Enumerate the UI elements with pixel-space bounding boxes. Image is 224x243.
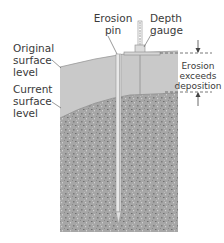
original-surface-label-line: level	[13, 66, 54, 78]
current-surface-label-line: surface	[13, 95, 52, 107]
depth-gauge-label: Depth gauge	[150, 12, 183, 36]
erosion-pin-label-line: Erosion	[88, 12, 138, 24]
depth-gauge-label-line: gauge	[150, 24, 183, 36]
original-surface-label: Original surface level	[13, 42, 54, 78]
erosion-pin	[116, 54, 121, 224]
original-surface-label-line: surface	[13, 54, 54, 66]
current-surface-label-line: level	[13, 107, 52, 119]
current-surface-label-line: Current	[13, 83, 52, 95]
erosion-note-label: Erosion exceeds deposition	[172, 61, 224, 91]
depth-gauge-label-line: Depth	[150, 12, 183, 24]
erosion-note-label-line: exceeds	[172, 71, 224, 81]
erosion-pin-label-line: pin	[88, 24, 138, 36]
original-surface-label-line: Original	[13, 42, 54, 54]
current-surface-label: Current surface level	[13, 83, 52, 119]
erosion-pin-diagram	[0, 0, 224, 243]
erosion-note-label-line: Erosion	[172, 61, 224, 71]
erosion-note-label-line: deposition	[172, 81, 224, 91]
erosion-pin-label: Erosion pin	[88, 12, 138, 36]
